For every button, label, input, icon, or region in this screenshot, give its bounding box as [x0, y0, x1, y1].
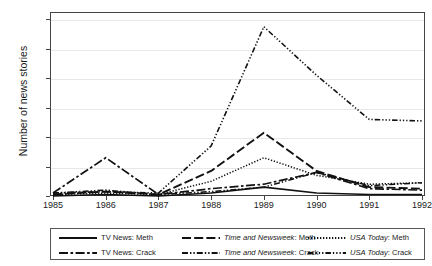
gridline [51, 168, 424, 169]
y-tick-mark [46, 19, 50, 20]
x-tick-label: 1985 [43, 200, 63, 210]
legend-label: USA Today: Meth [350, 234, 409, 242]
legend-line-swatch-icon [182, 249, 220, 257]
legend-item[interactable]: USA Today: Meth [308, 230, 409, 246]
x-tick-mark [264, 196, 265, 200]
legend-item[interactable]: TV News: Meth [59, 230, 153, 246]
legend-label: TV News: Crack [101, 249, 156, 257]
legend-item[interactable]: Time and Newsweek: Meth [182, 230, 316, 246]
y-tick-mark [46, 196, 50, 197]
legend-label: Time and Newsweek: Meth [224, 234, 316, 242]
gridline [51, 138, 424, 139]
gridline [51, 20, 424, 21]
x-tick-mark [158, 196, 159, 200]
x-tick-label: 1986 [96, 200, 116, 210]
x-tick-label: 1990 [307, 200, 327, 210]
legend-line-swatch-icon [308, 234, 346, 242]
gridline [51, 79, 424, 80]
legend-label: Time and Newsweek: Crack [224, 249, 318, 257]
y-tick-mark [46, 137, 50, 138]
legend-line-swatch-icon [59, 234, 97, 242]
x-tick-label: 1991 [359, 200, 379, 210]
x-tick-mark [53, 196, 54, 200]
x-tick-label: 1992 [412, 200, 432, 210]
legend-item[interactable]: TV News: Crack [59, 245, 156, 261]
y-tick-mark [46, 167, 50, 168]
y-tick-mark [46, 49, 50, 50]
x-tick-label: 1988 [201, 200, 221, 210]
legend-label: USA Today: Crack [350, 249, 412, 257]
legend-item[interactable]: Time and Newsweek: Crack [182, 245, 318, 261]
legend-line-swatch-icon [182, 234, 220, 242]
x-tick-label: 1989 [254, 200, 274, 210]
y-axis-title: Number of news stories [17, 31, 29, 171]
legend: TV News: MethTime and Newsweek: MethUSA … [50, 228, 425, 260]
y-tick-mark [46, 108, 50, 109]
x-tick-mark [317, 196, 318, 200]
x-tick-mark [422, 196, 423, 200]
x-tick-mark [369, 196, 370, 200]
legend-line-swatch-icon [59, 249, 97, 257]
x-tick-label: 1987 [148, 200, 168, 210]
legend-label: TV News: Meth [101, 234, 153, 242]
gridline [51, 109, 424, 110]
legend-line-swatch-icon [308, 249, 346, 257]
y-tick-mark [46, 78, 50, 79]
x-tick-mark [211, 196, 212, 200]
plot-frame [50, 12, 425, 196]
gridline [51, 50, 424, 51]
legend-item[interactable]: USA Today: Crack [308, 245, 412, 261]
x-tick-mark [106, 196, 107, 200]
